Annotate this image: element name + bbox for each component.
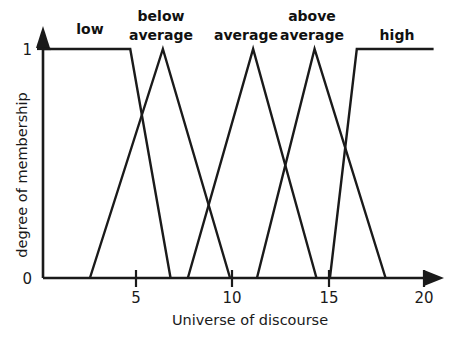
set-label-below-average-line1: below — [138, 8, 185, 24]
x-tick-label-5: 5 — [131, 289, 141, 307]
set-label-above-average-line1: above — [288, 8, 336, 24]
x-tick-label-20: 20 — [414, 289, 433, 307]
y-axis-title: degree of membership — [14, 92, 30, 257]
set-label-high: high — [380, 27, 415, 43]
y-tick-label-0: 0 — [22, 270, 32, 288]
set-label-average: average — [214, 27, 278, 43]
set-label-low: low — [76, 21, 103, 37]
x-axis-title: Universe of discourse — [172, 312, 328, 328]
x-tick-label-10: 10 — [222, 289, 241, 307]
set-label-below-average-line2: average — [129, 27, 193, 43]
y-tick-label-1: 1 — [22, 41, 32, 59]
set-label-above-average-line2: average — [280, 27, 344, 43]
x-tick-label-15: 15 — [319, 289, 338, 307]
fuzzy-membership-chart: 1 0 5 10 15 20 low below average average… — [0, 0, 468, 343]
chart-svg: 1 0 5 10 15 20 low below average average… — [0, 0, 468, 343]
